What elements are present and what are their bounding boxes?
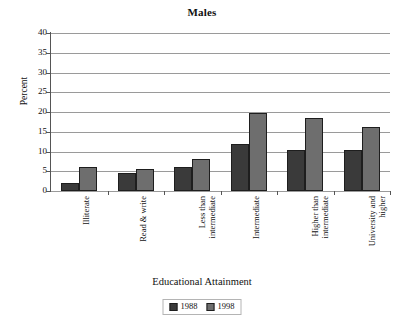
- y-axis-tick-label: 5: [7, 166, 47, 175]
- chart-title: Males: [0, 6, 404, 18]
- bar-1988-intermediate: [231, 144, 249, 191]
- x-axis-category-labels: IlliterateRead & writeLess thanintermedi…: [51, 196, 390, 274]
- x-axis-label-line: intermediate: [321, 196, 331, 272]
- bar-1998-higher-than-intermediate: [305, 118, 323, 191]
- y-axis-title: Percent: [19, 61, 29, 121]
- bar-group: [51, 33, 108, 191]
- y-axis-tick-label: 0: [7, 186, 47, 195]
- y-axis-tick-labels: 4035302520151050: [0, 0, 47, 321]
- bar-1988-illiterate: [61, 183, 79, 191]
- x-axis-label-line: Illiterate: [82, 196, 92, 272]
- legend-label-1998: 1998: [218, 301, 235, 312]
- x-axis-label-line: intermediate: [208, 196, 218, 272]
- bar-1998-university-and-higher: [362, 127, 380, 191]
- bar-group: [334, 33, 391, 191]
- bar-group: [108, 33, 165, 191]
- x-axis-title: Educational Attainment: [0, 276, 404, 287]
- x-axis-label-university-and-higher: University andhigher: [368, 196, 387, 272]
- x-axis-label-line: Read & write: [139, 196, 149, 272]
- x-axis-label-intermediate: Intermediate: [252, 196, 262, 272]
- bar-1998-illiterate: [79, 167, 97, 191]
- legend-label-1988: 1988: [181, 301, 198, 312]
- legend-swatch-1988: [170, 303, 178, 311]
- y-axis-tick-label: 10: [7, 147, 47, 156]
- chart-container: Males 4035302520151050 Percent Illiterat…: [0, 0, 404, 321]
- bar-1988-read-write: [118, 173, 136, 191]
- x-axis-tick-mark: [334, 191, 335, 195]
- y-axis-tick-label: 40: [7, 28, 47, 37]
- bar-group: [277, 33, 334, 191]
- legend: 19881998: [163, 299, 242, 315]
- x-axis-label-line: higher: [377, 196, 387, 272]
- bar-group: [164, 33, 221, 191]
- bar-group: [221, 33, 278, 191]
- bar-1998-less-than-intermediate: [192, 159, 210, 191]
- x-axis-label-higher-than-intermediate: Higher thanintermediate: [311, 196, 330, 272]
- x-axis-label-line: Intermediate: [252, 196, 262, 272]
- bar-series-layer: [51, 33, 390, 191]
- legend-item-1998: 1998: [207, 301, 235, 312]
- legend-item-1988: 1988: [170, 301, 198, 312]
- x-axis-label-illiterate: Illiterate: [82, 196, 92, 272]
- x-axis-label-line: University and: [368, 196, 378, 272]
- bar-1998-read-write: [136, 169, 154, 191]
- bar-1988-less-than-intermediate: [174, 167, 192, 191]
- x-axis-label-read-write: Read & write: [139, 196, 149, 272]
- x-axis-tick-mark: [164, 191, 165, 195]
- y-axis-tick-label: 35: [7, 48, 47, 57]
- bar-1988-higher-than-intermediate: [287, 150, 305, 191]
- bar-1998-intermediate: [249, 113, 267, 191]
- y-axis-tick-label: 15: [7, 127, 47, 136]
- legend-swatch-1998: [207, 303, 215, 311]
- x-axis-tick-mark: [108, 191, 109, 195]
- x-axis-tick-mark: [277, 191, 278, 195]
- x-axis-label-less-than-intermediate: Less thanintermediate: [198, 196, 217, 272]
- x-axis-tick-mark: [390, 191, 391, 195]
- bar-1988-university-and-higher: [344, 150, 362, 191]
- x-axis-tick-mark: [221, 191, 222, 195]
